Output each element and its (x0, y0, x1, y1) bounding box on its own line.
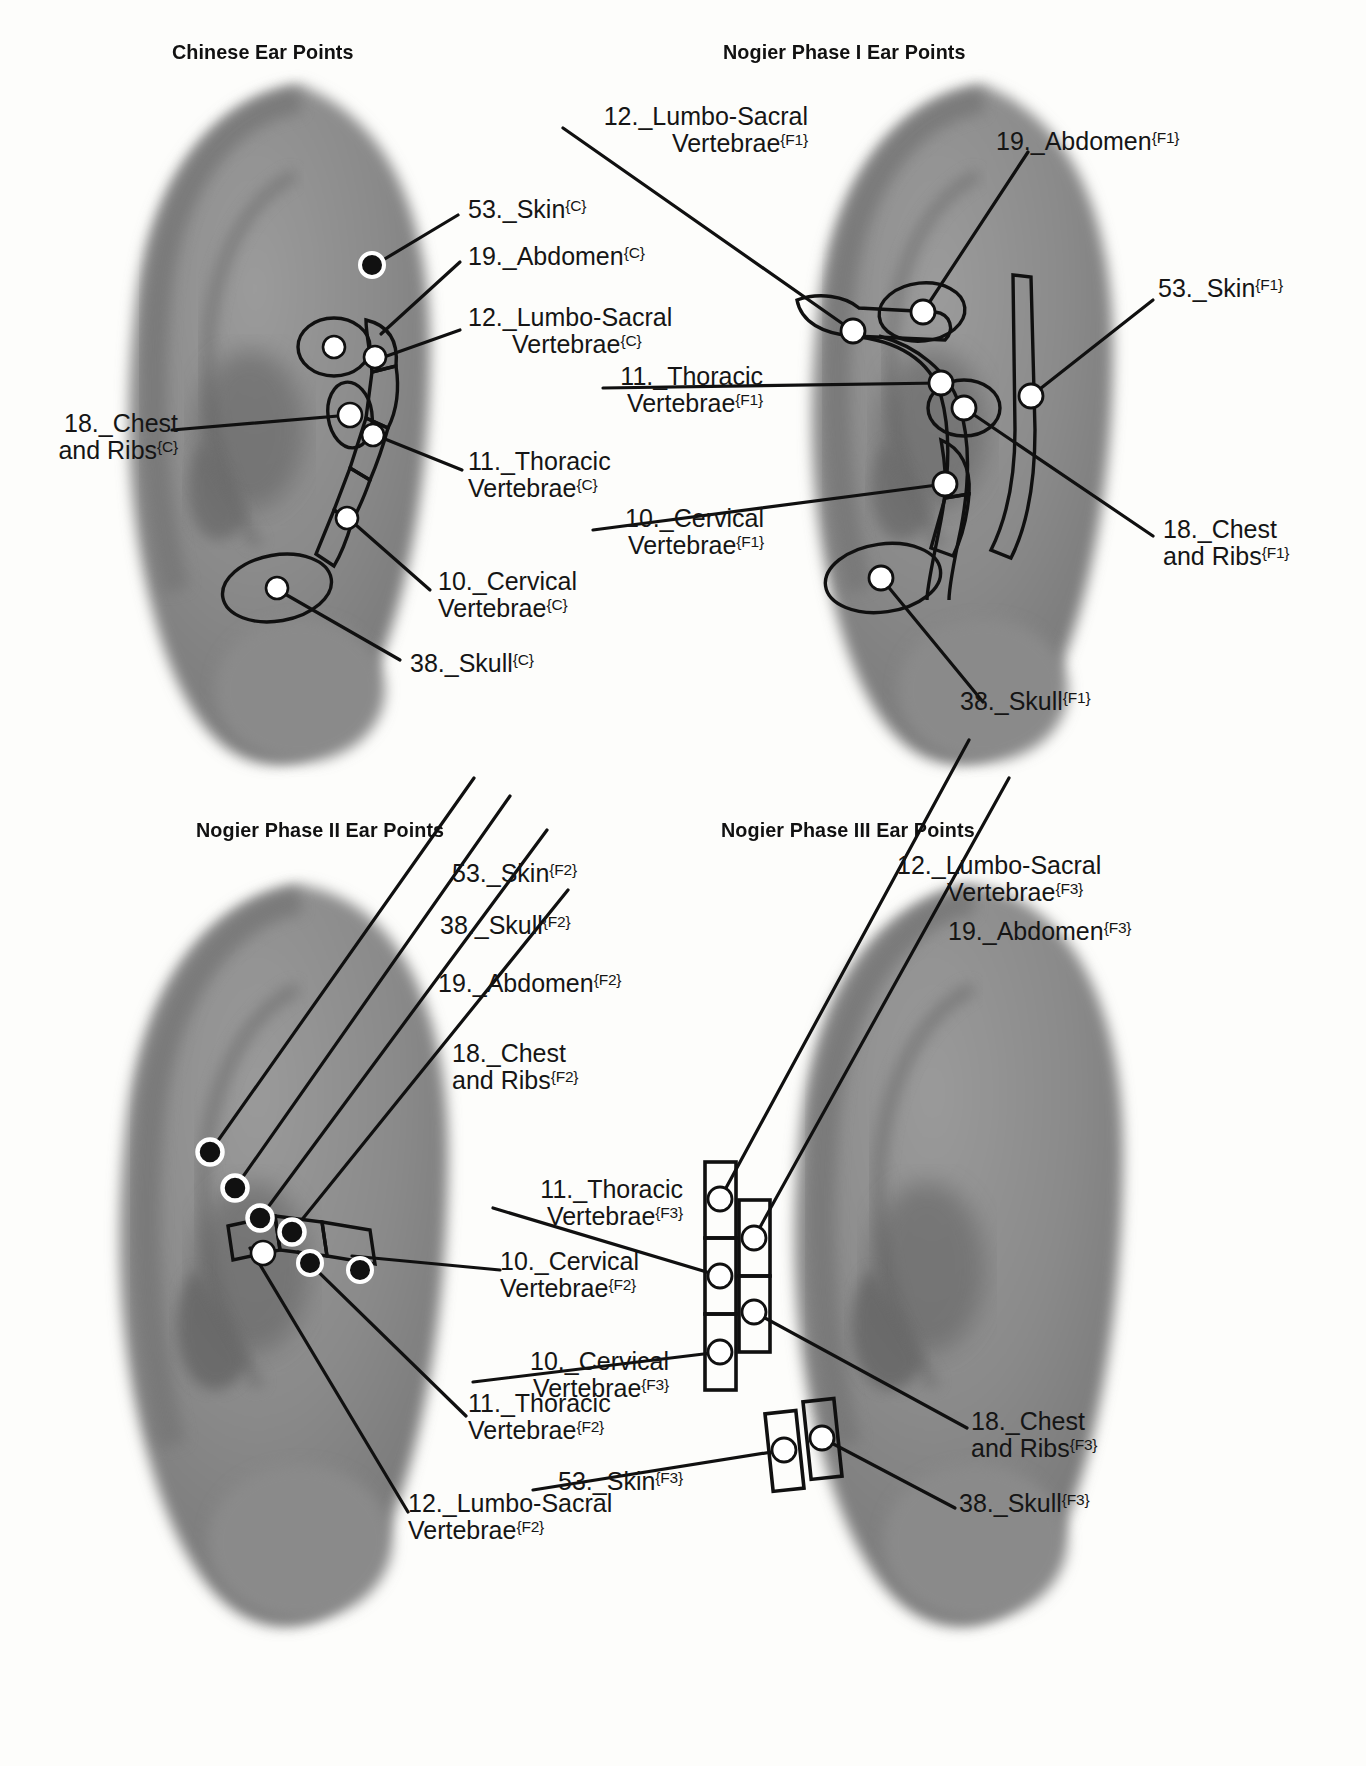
marker-lumbo-sacral-f1 (841, 319, 865, 343)
label-lumbo-sacral-chinese: 12._Lumbo-Sacral Vertebrae{C} (468, 304, 672, 357)
label-abdomen-phase3: 19._Abdomen{F3} (948, 918, 1131, 945)
label-cervical-phase1: 10._Cervical Vertebrae{F1} (538, 505, 764, 558)
marker-cervical-f1 (933, 472, 957, 496)
label-chest-ribs-phase3: 18._Chest and Ribs{F3} (971, 1408, 1097, 1461)
label-skin-phase1: 53._Skin{F1} (1158, 275, 1283, 302)
label-lumbo-sacral-phase3: 12._Lumbo-Sacral Vertebrae{F3} (897, 852, 1101, 905)
label-thoracic-chinese: 11._Thoracic Vertebrae{C} (468, 448, 611, 501)
marker-lumbo-sacral-f3 (742, 1226, 766, 1250)
marker-chest-ribs-f3 (742, 1300, 766, 1324)
label-skin-chinese: 53._Skin{C} (468, 196, 586, 223)
label-cervical-phase3: 10._Cervical Vertebrae{F3} (433, 1348, 669, 1401)
label-skull-phase1: 38._Skull{F1} (960, 688, 1091, 715)
marker-skin-f2 (198, 1140, 223, 1165)
label-abdomen-phase1: 19._Abdomen{F1} (996, 128, 1179, 155)
label-skull-chinese: 38._Skull{C} (410, 650, 534, 677)
marker-cervical-f3 (708, 1340, 732, 1364)
marker-skin-c (360, 253, 384, 277)
label-abdomen-chinese: 19._Abdomen{C} (468, 243, 645, 270)
label-chest-ribs-phase1: 18._Chest and Ribs{F1} (1163, 516, 1289, 569)
label-thoracic-phase1: 11._Thoracic Vertebrae{F1} (548, 363, 763, 416)
label-lumbo-sacral-phase1: 12._Lumbo-Sacral Vertebrae{F1} (548, 103, 808, 156)
marker-abdomen-c (323, 336, 345, 358)
label-chest-ribs-phase2: 18._Chest and Ribs{F2} (452, 1040, 578, 1093)
marker-thoracic2-f3 (708, 1264, 732, 1288)
label-cervical-phase2: 10._Cervical Vertebrae{F2} (500, 1248, 639, 1301)
label-lumbo-sacral-phase2: 12._Lumbo-Sacral Vertebrae{F2} (408, 1490, 612, 1543)
marker-abdomen-f2 (248, 1206, 273, 1231)
marker-skull-f3 (810, 1426, 834, 1450)
label-skull-phase3: 38._Skull{F3} (959, 1490, 1090, 1517)
marker-lumbo-sacral-f2 (251, 1241, 275, 1265)
marker-thoracic-f1 (929, 371, 953, 395)
marker-chest-ribs-f1 (952, 396, 976, 420)
marker-thoracic-f3 (708, 1187, 732, 1211)
label-thoracic-phase3: 11._Thoracic Vertebrae{F3} (453, 1176, 683, 1229)
label-cervical-chinese: 10._Cervical Vertebrae{C} (438, 568, 577, 621)
marker-thoracic-c (362, 424, 384, 446)
marker-lumbo-sacral-c (364, 346, 386, 368)
marker-thoracic-f2 (298, 1251, 322, 1275)
marker-skull-f2 (223, 1176, 248, 1201)
marker-chest-ribs-f2 (280, 1220, 305, 1245)
marker-abdomen-f1 (911, 300, 935, 324)
label-skull-phase2: 38._Skull{F2} (440, 912, 571, 939)
marker-cervical-f2 (348, 1258, 372, 1282)
label-chest-ribs-chinese: 18._Chest and Ribs{C} (10, 410, 178, 463)
label-abdomen-phase2: 19._Abdomen{F2} (438, 970, 621, 997)
marker-chest-ribs-c (338, 403, 362, 427)
marker-skull-c (266, 577, 288, 599)
marker-skin-f3 (772, 1438, 796, 1462)
label-skin-phase2: 53._Skin{F2} (452, 860, 577, 887)
marker-skin-f1 (1019, 384, 1043, 408)
ear-shape-phase2 (120, 885, 448, 1626)
marker-cervical-c (336, 507, 358, 529)
label-skin-phase3: 53._Skin{F3} (483, 1468, 683, 1495)
marker-skull-f1 (869, 566, 893, 590)
